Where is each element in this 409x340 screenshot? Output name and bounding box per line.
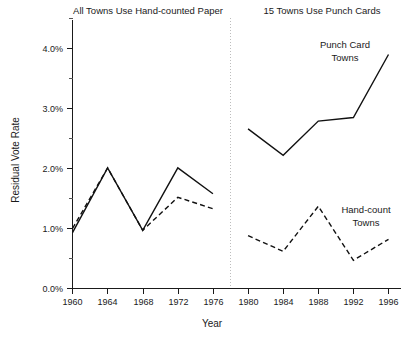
y-axis: 4.0% 3.0% 2.0% 1.0% 0.0% Residual Vote R… <box>10 19 73 295</box>
series-annotations: Punch Card Towns Hand-count Towns <box>320 39 391 228</box>
x-axis-title: Year <box>202 318 223 329</box>
y-tick-label-2: 2.0% <box>42 164 63 174</box>
y-tick-label-3: 3.0% <box>42 104 63 114</box>
x-tick-label-1960: 1960 <box>62 297 82 307</box>
right-panel-title: 15 Towns Use Punch Cards <box>263 5 380 16</box>
punch-card-towns-label-line1: Punch Card <box>320 39 370 50</box>
y-tick-label-1: 1.0% <box>42 224 63 234</box>
x-tick-label-1980: 1980 <box>238 297 258 307</box>
y-axis-title: Residual Vote Rate <box>10 117 21 203</box>
chart-canvas: All Towns Use Hand-counted Paper 15 Town… <box>0 0 409 340</box>
panel-titles: All Towns Use Hand-counted Paper 15 Town… <box>73 5 381 16</box>
right-panel-series <box>248 55 388 261</box>
hand-count-towns-label-line2: Towns <box>353 217 380 228</box>
right-panel-punch-card-line <box>248 55 388 156</box>
x-tick-label-1984: 1984 <box>273 297 293 307</box>
punch-card-towns-label-line2: Towns <box>332 52 359 63</box>
left-panel-series <box>73 168 213 233</box>
left-panel-hand-count-line <box>73 168 213 230</box>
residual-vote-rate-chart: All Towns Use Hand-counted Paper 15 Town… <box>0 0 409 340</box>
y-tick-label-4: 4.0% <box>42 44 63 54</box>
x-tick-label-1992: 1992 <box>343 297 363 307</box>
x-tick-label-1972: 1972 <box>168 297 188 307</box>
x-tick-label-1964: 1964 <box>97 297 117 307</box>
x-axis: 1960 1964 1968 1972 1976 1980 1984 1988 … <box>62 289 401 330</box>
left-panel-title: All Towns Use Hand-counted Paper <box>73 5 223 16</box>
x-tick-label-1976: 1976 <box>203 297 223 307</box>
x-tick-label-1968: 1968 <box>133 297 153 307</box>
x-tick-label-1988: 1988 <box>308 297 328 307</box>
y-tick-label-0: 0.0% <box>42 284 63 294</box>
left-panel-punch-card-line <box>73 168 213 233</box>
hand-count-towns-label-line1: Hand-count <box>341 204 390 215</box>
x-tick-label-1996: 1996 <box>378 297 398 307</box>
